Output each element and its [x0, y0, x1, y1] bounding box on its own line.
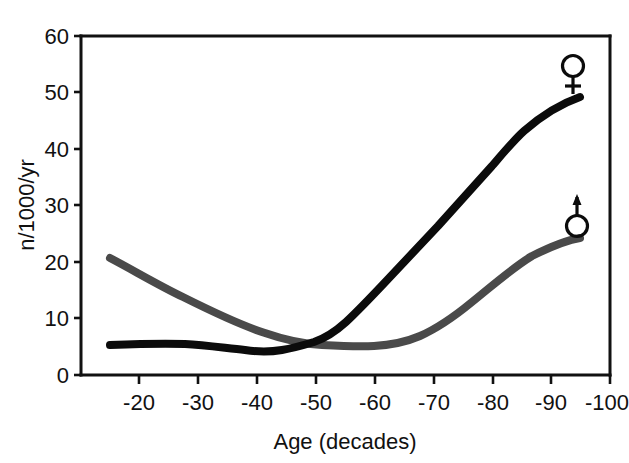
x-tick-label--30: -30: [182, 390, 214, 415]
x-axis-title: Age (decades): [273, 429, 416, 454]
x-tick-label--100: -100: [585, 390, 629, 415]
x-tick-label--40: -40: [241, 390, 273, 415]
y-tick-label-40: 40: [45, 137, 69, 162]
x-tick-label--50: -50: [300, 390, 332, 415]
x-axis-tick-labels: -20 -30 -40 -50 -60 -70 -80 -90 -100: [123, 390, 629, 415]
x-tick-label--20: -20: [123, 390, 155, 415]
x-tick-label--90: -90: [535, 390, 567, 415]
chart-figure: 60 50 40 30 20 10 0: [0, 0, 629, 463]
y-tick-label-60: 60: [45, 24, 69, 49]
x-tick-label--70: -70: [418, 390, 450, 415]
y-tick-label-0: 0: [57, 363, 69, 388]
y-tick-label-10: 10: [45, 306, 69, 331]
y-tick-label-20: 20: [45, 250, 69, 275]
x-tick-label--80: -80: [477, 390, 509, 415]
x-tick-label--60: -60: [359, 390, 391, 415]
y-tick-label-30: 30: [45, 193, 69, 218]
y-tick-label-50: 50: [45, 80, 69, 105]
y-axis-title: n/1000/yr: [14, 159, 39, 251]
chart-svg: 60 50 40 30 20 10 0: [0, 0, 629, 463]
